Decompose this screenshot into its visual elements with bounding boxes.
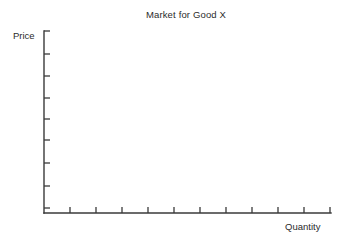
plot-area [0,0,344,241]
axis-lines [44,31,331,213]
x-axis-ticks [70,207,330,213]
chart-figure: Market for Good X Price Quantity [0,0,344,241]
y-axis-ticks [44,31,50,208]
